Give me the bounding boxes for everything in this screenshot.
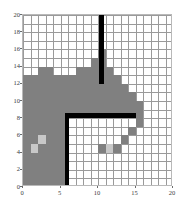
x-tick-mark [97, 186, 98, 188]
x-tick-label: 15 [127, 189, 143, 196]
y-tick-label: 18 [6, 28, 20, 35]
y-tick-label: 10 [6, 97, 20, 104]
plot-area [22, 14, 172, 186]
occupancy-grid-figure: 0246810121416182005101520 [0, 0, 186, 209]
wall-segment [65, 113, 69, 186]
y-tick-mark [20, 66, 22, 67]
x-tick-mark [22, 186, 23, 188]
x-tick-mark [172, 186, 173, 188]
y-tick-mark [20, 100, 22, 101]
y-tick-label: 8 [6, 114, 20, 121]
y-tick-mark [20, 134, 22, 135]
y-tick-mark [20, 83, 22, 84]
y-tick-label: 12 [6, 79, 20, 86]
wall-segment [99, 15, 104, 84]
y-tick-label: 6 [6, 131, 20, 138]
x-tick-mark [60, 186, 61, 188]
y-tick-mark [20, 48, 22, 49]
y-tick-label: 16 [6, 45, 20, 52]
y-tick-mark [20, 117, 22, 118]
wall-segment [65, 113, 136, 118]
x-tick-mark [135, 186, 136, 188]
x-tick-label: 20 [164, 189, 180, 196]
y-tick-label: 14 [6, 62, 20, 69]
y-tick-label: 2 [6, 165, 20, 172]
x-tick-label: 0 [14, 189, 30, 196]
y-tick-mark [20, 14, 22, 15]
x-tick-label: 5 [52, 189, 68, 196]
y-tick-mark [20, 152, 22, 153]
y-tick-mark [20, 31, 22, 32]
y-tick-mark [20, 169, 22, 170]
x-tick-label: 10 [89, 189, 105, 196]
y-tick-label: 4 [6, 148, 20, 155]
wall-segments-layer [23, 15, 171, 185]
y-tick-label: 20 [6, 11, 20, 18]
